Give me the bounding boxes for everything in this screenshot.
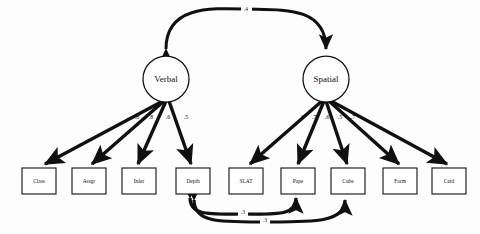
spatial-loadings: .8 .7 .6 .5 .7 — [250, 101, 447, 164]
form-label: Form — [394, 178, 406, 184]
factor-correlation-coefficient: .4 — [244, 6, 248, 12]
observed-node-assgr[interactable]: Assgr — [72, 168, 106, 194]
observed-node-slat[interactable]: SLAT — [229, 168, 263, 194]
observed-node-infer[interactable]: Infer — [122, 168, 156, 194]
path-diagram: .4 .8 .8 .6 .5 .8 .7 .6 .5 .7 — [0, 0, 480, 234]
observed-node-form[interactable]: Form — [383, 168, 417, 194]
loading-coefficient-verbal-assgr: .8 — [149, 114, 154, 120]
card-label: Card — [444, 178, 455, 184]
slat-label: SLAT — [240, 178, 254, 184]
observed-node-paper[interactable]: Pape — [281, 168, 315, 194]
observed-node-depth[interactable]: Depth — [176, 168, 210, 194]
spatial-label: Spatial — [314, 74, 339, 84]
loading-verbal-depth — [169, 101, 191, 164]
factor-correlation-edge: .4 — [166, 4, 326, 49]
diagram-canvas: .4 .8 .8 .6 .5 .8 .7 .6 .5 .7 — [0, 0, 480, 234]
assgr-label: Assgr — [83, 178, 96, 184]
infer-label: Infer — [134, 178, 145, 184]
class-label: Class — [33, 178, 45, 184]
paper-label: Pape — [293, 178, 304, 184]
verbal-loadings: .8 .8 .6 .5 — [45, 101, 191, 164]
residual-coefficient-depth-cube: .3 — [263, 217, 267, 223]
observed-node-class[interactable]: Class — [22, 168, 56, 194]
latent-node-spatial[interactable]: Spatial — [303, 56, 349, 102]
loading-coefficient-verbal-class: .8 — [135, 114, 140, 120]
loading-coefficient-spatial-card: .7 — [351, 114, 356, 120]
residual-correlations: .3 .3 — [190, 198, 345, 225]
loading-spatial-cube — [326, 101, 347, 164]
cube-label: Cube — [342, 178, 354, 184]
residual-coefficient-depth-paper: .3 — [241, 209, 245, 215]
loading-coefficient-spatial-slat: .8 — [300, 114, 305, 120]
latent-node-verbal[interactable]: Verbal — [143, 56, 189, 102]
observed-node-cube[interactable]: Cube — [331, 168, 365, 194]
depth-label: Depth — [186, 178, 199, 184]
loading-coefficient-spatial-form: .5 — [338, 114, 343, 120]
loading-coefficient-verbal-depth: .5 — [184, 114, 189, 120]
loading-coefficient-verbal-infer: .6 — [166, 114, 171, 120]
observed-node-card[interactable]: Card — [432, 168, 466, 194]
verbal-label: Verbal — [154, 74, 178, 84]
loading-coefficient-spatial-paper: .7 — [312, 114, 317, 120]
loading-coefficient-spatial-cube: .6 — [325, 114, 330, 120]
factor-correlation-path — [166, 9, 326, 49]
